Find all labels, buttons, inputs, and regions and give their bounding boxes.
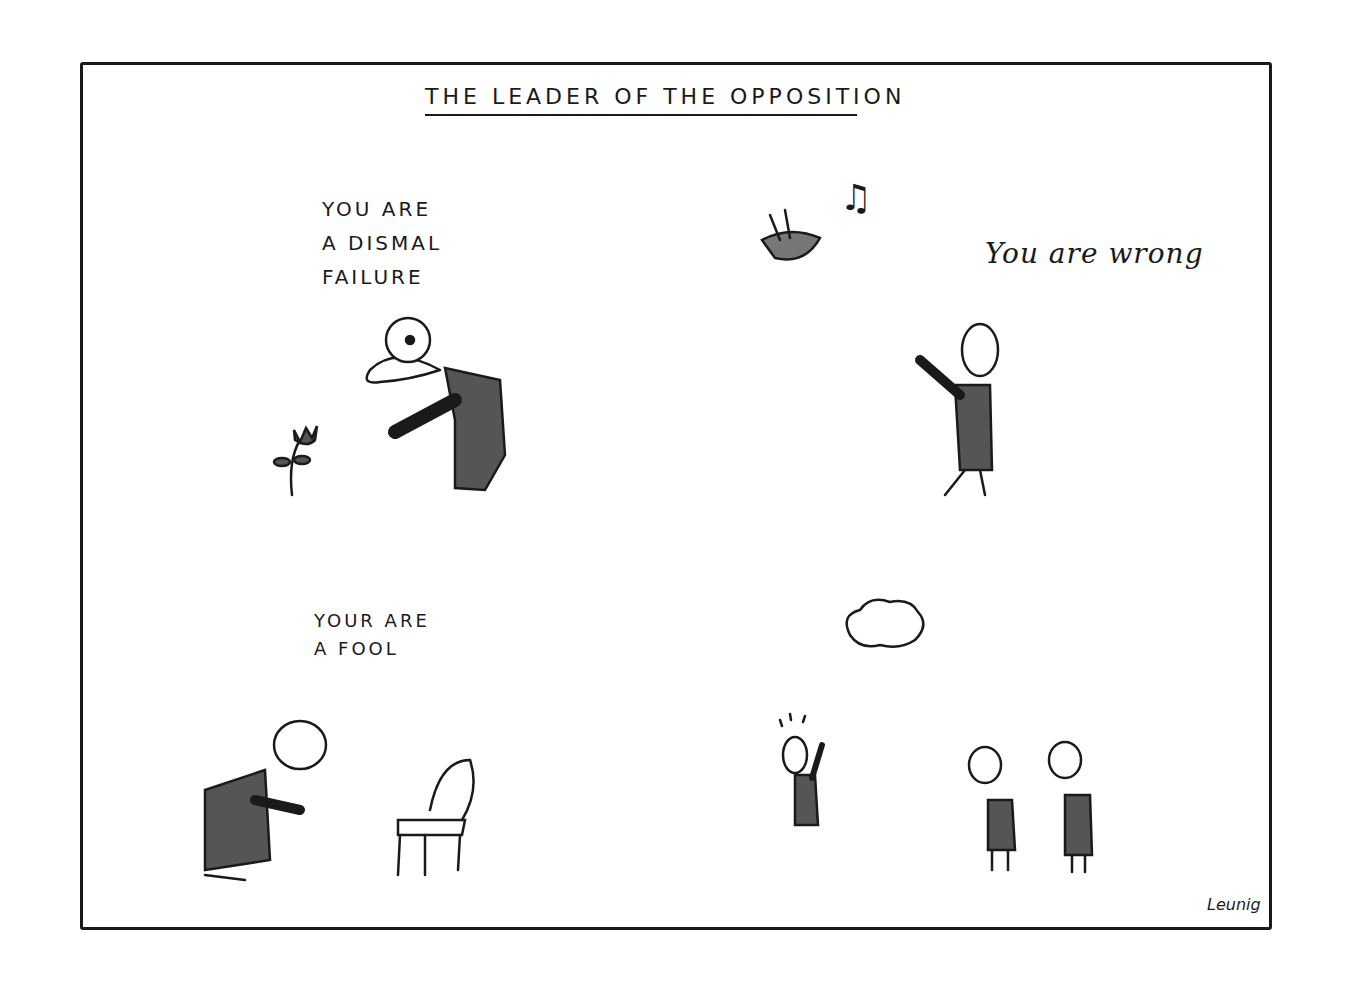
flower-icon <box>274 426 317 495</box>
illustrations: ♫ <box>0 0 1348 985</box>
bird-icon <box>762 210 820 259</box>
listener-man-icon <box>969 747 1015 870</box>
listener-man-icon <box>1049 742 1092 872</box>
man-pointing-at-chair-icon <box>205 721 326 880</box>
music-note-icon: ♫ <box>840 177 872 218</box>
man-pointing-at-flower-icon <box>367 318 505 490</box>
man-shouting-icon <box>780 714 822 825</box>
man-pointing-up-icon <box>920 324 998 495</box>
chair-icon <box>398 760 474 875</box>
cloud-icon <box>847 600 924 647</box>
